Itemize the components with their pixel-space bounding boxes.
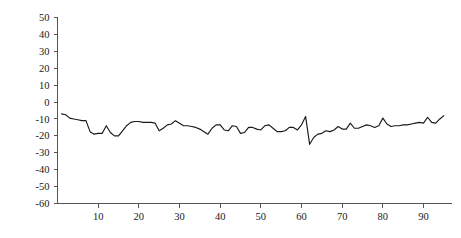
y-tick-label: 10 [39, 80, 50, 91]
y-tick-label: -20 [36, 130, 50, 141]
x-tick-label: 60 [296, 211, 307, 222]
y-tick-label: 30 [39, 46, 50, 57]
y-tick-label: 0 [44, 97, 49, 108]
y-tick-label: 50 [39, 12, 50, 23]
data-series-line [62, 114, 444, 144]
x-tick-label: 50 [256, 211, 267, 222]
y-tick-label: -40 [36, 164, 50, 175]
y-axis-tick-labels: 50403020100-10-20-30-40-50-60 [36, 12, 50, 209]
y-tick-label: -30 [36, 147, 50, 158]
x-tick-label: 70 [337, 211, 348, 222]
x-axis-tick-marks [98, 204, 423, 208]
y-tick-label: 20 [39, 63, 50, 74]
chart-canvas: 50403020100-10-20-30-40-50-60 1020304050… [0, 0, 461, 238]
x-tick-label: 10 [93, 211, 104, 222]
y-tick-label: -10 [36, 114, 50, 125]
y-tick-label: -60 [36, 198, 50, 209]
y-tick-label: 40 [39, 29, 50, 40]
y-tick-label: -50 [36, 181, 50, 192]
y-axis-tick-marks [54, 18, 58, 204]
x-tick-label: 40 [215, 211, 226, 222]
x-tick-label: 80 [378, 211, 389, 222]
x-tick-label: 20 [134, 211, 145, 222]
x-axis-tick-labels: 102030405060708090 [93, 211, 429, 222]
line-chart: 50403020100-10-20-30-40-50-60 1020304050… [0, 0, 461, 238]
x-tick-label: 30 [174, 211, 185, 222]
x-tick-label: 90 [418, 211, 429, 222]
